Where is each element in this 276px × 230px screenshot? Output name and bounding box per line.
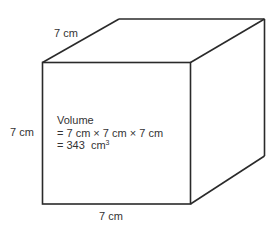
left-edge-label: 7 cm <box>10 126 34 138</box>
volume-title: Volume <box>57 114 163 127</box>
volume-exponent: 3 <box>106 139 110 146</box>
volume-calculation: Volume = 7 cm × 7 cm × 7 cm = 343 cm3 <box>57 114 163 152</box>
volume-formula: = 7 cm × 7 cm × 7 cm <box>57 127 163 140</box>
volume-result: = 343 cm3 <box>57 139 163 152</box>
cube-bottom-right-edge <box>191 156 265 204</box>
volume-result-value: = 343 cm <box>57 139 106 151</box>
cube-top-right-edge <box>191 19 265 63</box>
cube-top-left-edge <box>43 19 120 63</box>
bottom-edge-label: 7 cm <box>99 210 123 222</box>
top-edge-label: 7 cm <box>54 27 78 39</box>
